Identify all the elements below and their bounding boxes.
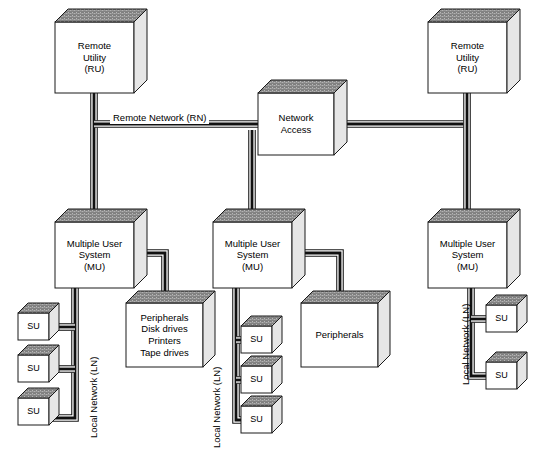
box-top-face — [428, 209, 520, 222]
box-front-face — [18, 398, 49, 425]
box-top-face — [428, 9, 520, 22]
box-front-face — [18, 355, 49, 382]
box-front-face — [428, 222, 507, 288]
ln-label-left: Local Network (LN) — [88, 357, 99, 438]
node-peripherals-left[interactable] — [126, 291, 215, 367]
box-front-face — [213, 222, 292, 288]
diagram-svg — [0, 0, 538, 457]
node-su-right-2[interactable] — [486, 352, 527, 389]
node-ru-right[interactable] — [428, 9, 520, 93]
box-front-face — [258, 93, 334, 155]
node-su-right-1[interactable] — [486, 295, 527, 332]
node-mu-right[interactable] — [428, 209, 520, 288]
box-side-face — [203, 291, 215, 367]
cable-channel — [471, 288, 486, 376]
ln-label-right: Local Network (LN) — [460, 304, 471, 385]
cable-mu-right-ln — [471, 288, 486, 376]
box-top-face — [301, 291, 390, 303]
node-mu-left[interactable] — [55, 209, 147, 288]
node-network-access[interactable] — [258, 80, 347, 155]
box-front-face — [301, 303, 378, 367]
box-side-face — [507, 209, 520, 288]
box-front-face — [126, 303, 203, 367]
box-front-face — [486, 362, 517, 389]
box-front-face — [241, 366, 272, 393]
box-top-face — [126, 291, 215, 303]
box-top-face — [55, 9, 147, 22]
box-front-face — [55, 22, 134, 93]
box-top-face — [213, 209, 305, 222]
box-front-face — [18, 313, 49, 340]
box-side-face — [334, 80, 347, 155]
box-front-face — [486, 305, 517, 332]
box-side-face — [134, 9, 147, 93]
node-ru-left[interactable] — [55, 9, 147, 93]
box-front-face — [241, 326, 272, 353]
cable-mu-mid-ln — [236, 288, 241, 420]
node-su-mid-1[interactable] — [241, 316, 282, 353]
box-side-face — [378, 291, 390, 367]
node-su-left-3[interactable] — [18, 388, 59, 425]
network-diagram-canvas: Remote Utility (RU)Remote Utility (RU)Ne… — [0, 0, 538, 457]
ln-label-middle: Local Network (LN) — [211, 367, 222, 448]
node-su-mid-3[interactable] — [241, 396, 282, 433]
node-peripherals-middle[interactable] — [301, 291, 390, 367]
node-mu-middle[interactable] — [213, 209, 305, 288]
node-su-mid-2[interactable] — [241, 356, 282, 393]
node-su-left-1[interactable] — [18, 303, 59, 340]
box-front-face — [55, 222, 134, 288]
box-side-face — [292, 209, 305, 288]
box-side-face — [134, 209, 147, 288]
box-top-face — [55, 209, 147, 222]
box-front-face — [428, 22, 507, 93]
box-side-face — [507, 9, 520, 93]
box-top-face — [258, 80, 347, 93]
box-front-face — [241, 406, 272, 433]
node-su-left-2[interactable] — [18, 345, 59, 382]
